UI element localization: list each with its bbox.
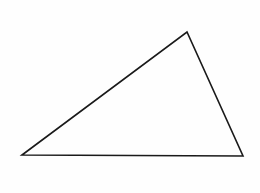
diagram-canvas: [0, 0, 260, 193]
triangle-shape: [22, 32, 243, 156]
triangle-figure: [0, 0, 260, 193]
